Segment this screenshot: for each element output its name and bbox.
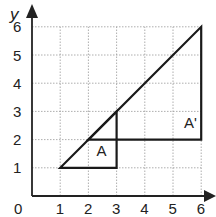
y-axis-label: y (9, 5, 20, 24)
x-tick-label: 5 (169, 200, 177, 217)
y-tick-label: 2 (13, 131, 21, 148)
diagram-svg: AA' 123456123456 y 0 (0, 0, 216, 217)
triangle-label: A (97, 142, 107, 159)
x-tick-label: 4 (140, 200, 148, 217)
triangles: AA' (60, 27, 201, 168)
x-tick-label: 1 (56, 200, 64, 217)
triangle-label: A' (184, 114, 197, 131)
y-tick-label: 5 (13, 47, 21, 64)
coordinate-diagram: AA' 123456123456 y 0 (0, 0, 216, 217)
x-tick-label: 3 (112, 200, 120, 217)
y-tick-label: 4 (13, 75, 21, 92)
y-tick-label: 3 (13, 103, 21, 120)
x-axis-arrow-icon (204, 190, 216, 202)
x-tick-label: 2 (84, 200, 92, 217)
axes (26, 4, 216, 202)
origin-label: 0 (14, 200, 22, 217)
x-tick-label: 6 (197, 200, 205, 217)
y-tick-label: 1 (13, 159, 21, 176)
y-axis-arrow-icon (26, 4, 38, 18)
